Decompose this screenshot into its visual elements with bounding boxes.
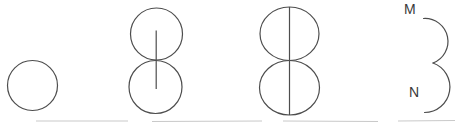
faint-baseline <box>36 121 455 122</box>
figure-double-circle-full-axis <box>260 7 320 115</box>
baseline-segment <box>283 121 378 122</box>
baseline-segment <box>152 121 262 122</box>
top-half-arc <box>424 18 448 63</box>
figure-half-arcs-mn: M N <box>404 1 450 113</box>
circle-shape <box>8 61 58 111</box>
baseline-segment <box>398 121 455 122</box>
bottom-circle-shape <box>129 61 182 114</box>
endpoint-label-n: N <box>409 84 419 100</box>
figure-double-circle-short-axis <box>129 8 183 114</box>
bottom-half-arc <box>425 63 450 113</box>
figure-svg: M N <box>0 0 455 125</box>
endpoint-label-m: M <box>404 1 416 17</box>
figure-single-circle <box>8 61 58 111</box>
diagram-canvas: M N <box>0 0 455 125</box>
